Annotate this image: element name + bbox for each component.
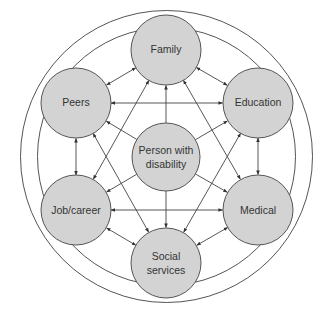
node-family: Family [131, 15, 201, 85]
node-label-person-line2: disability [146, 158, 187, 170]
edge-social-job [107, 228, 136, 245]
node-label-peers: Peers [62, 96, 89, 108]
node-label-social-line1: Social [152, 250, 181, 262]
node-label-person-line1: Person with [139, 144, 194, 156]
node-social-services: Social services [131, 228, 201, 298]
edge-person-job [107, 174, 137, 192]
node-job-career: Job/career [41, 175, 111, 245]
node-label-social-line2: services [147, 264, 186, 276]
edge-person-peers [106, 121, 136, 139]
disability-network-diagram: Family Education Medical Social services… [0, 0, 333, 316]
edge-medical-social [197, 227, 228, 245]
edge-family-peers [107, 68, 136, 85]
node-label-medical: Medical [240, 204, 276, 216]
node-person-with-disability: Person with disability [132, 123, 200, 191]
edge-person-education [195, 121, 227, 140]
node-education: Education [223, 68, 293, 138]
node-label-education: Education [235, 96, 282, 108]
node-medical: Medical [223, 175, 293, 245]
edge-person-medical [195, 174, 227, 192]
edge-family-education [196, 67, 227, 85]
node-label-family: Family [151, 43, 183, 55]
node-peers: Peers [41, 68, 111, 138]
node-label-job-career: Job/career [51, 204, 101, 216]
